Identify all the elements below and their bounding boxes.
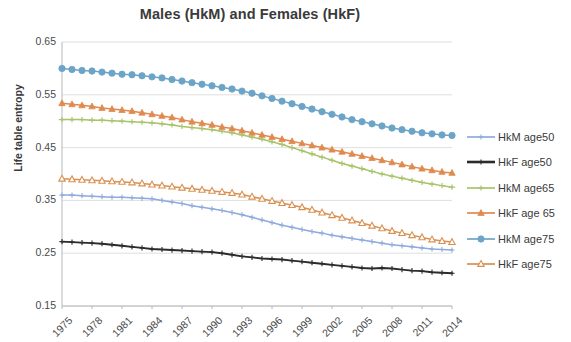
data-point-marker <box>299 227 304 232</box>
data-point-marker <box>309 260 314 265</box>
legend-swatch <box>466 232 496 246</box>
legend-label: HkF age 65 <box>498 207 555 219</box>
data-point-marker <box>369 121 375 127</box>
data-point-marker <box>79 240 84 245</box>
data-point-marker <box>79 193 84 198</box>
data-point-marker <box>119 243 124 248</box>
data-point-marker <box>139 120 145 125</box>
data-point-marker <box>409 244 414 249</box>
data-point-marker <box>189 125 195 130</box>
data-point-marker <box>259 256 264 261</box>
data-point-marker <box>339 161 345 166</box>
legend-swatch <box>466 130 496 144</box>
data-point-marker <box>119 195 124 200</box>
data-point-marker <box>449 185 455 190</box>
legend-item[interactable]: HkF age50 <box>466 150 571 176</box>
data-point-marker <box>249 255 254 260</box>
data-point-marker <box>439 247 444 252</box>
data-point-marker <box>429 181 435 186</box>
data-point-marker <box>399 243 404 248</box>
legend-label: HkM age75 <box>498 233 554 245</box>
data-point-marker <box>99 194 104 199</box>
data-point-marker <box>159 247 164 252</box>
data-point-marker <box>439 183 445 188</box>
legend-item[interactable]: HkM age50 <box>466 124 571 150</box>
data-point-marker <box>219 84 225 90</box>
data-point-marker <box>169 76 175 82</box>
data-point-marker <box>69 240 74 245</box>
data-point-marker <box>109 195 114 200</box>
data-point-marker <box>339 114 345 120</box>
data-point-marker <box>89 118 95 123</box>
data-point-marker <box>279 142 285 147</box>
data-point-marker <box>239 254 244 259</box>
data-point-marker <box>339 263 344 268</box>
data-point-marker <box>299 103 305 109</box>
data-point-marker <box>409 178 415 183</box>
data-point-marker <box>309 151 315 156</box>
data-point-marker <box>149 120 155 125</box>
data-point-marker <box>269 95 275 101</box>
data-point-marker <box>299 259 304 264</box>
data-point-marker <box>79 67 85 73</box>
data-point-marker <box>329 111 335 117</box>
data-point-marker <box>159 121 165 126</box>
legend-item[interactable]: HkF age 65 <box>466 201 571 227</box>
data-point-marker <box>159 198 164 203</box>
data-point-marker <box>89 241 94 246</box>
data-point-marker <box>419 245 424 250</box>
data-point-marker <box>439 132 445 138</box>
data-point-marker <box>289 225 294 230</box>
data-point-marker <box>209 127 215 132</box>
data-point-marker <box>249 215 254 220</box>
data-point-marker <box>319 108 325 114</box>
data-point-marker <box>419 269 424 274</box>
data-point-marker <box>429 270 434 275</box>
legend-item[interactable]: HkM age75 <box>466 226 571 252</box>
legend-item[interactable]: HkM age65 <box>466 175 571 201</box>
data-point-marker <box>359 166 365 171</box>
data-point-marker <box>299 148 305 153</box>
data-point-marker <box>159 75 165 81</box>
data-point-marker <box>109 70 115 76</box>
data-point-marker <box>79 117 85 122</box>
data-point-marker <box>279 98 285 104</box>
data-point-marker <box>179 201 184 206</box>
data-point-marker <box>478 236 484 242</box>
data-point-marker <box>389 174 395 179</box>
legend-label: HkF age75 <box>498 258 552 270</box>
legend-swatch <box>466 206 496 220</box>
data-point-marker <box>309 106 315 112</box>
data-point-marker <box>199 126 205 131</box>
data-point-marker <box>419 180 425 185</box>
data-point-marker <box>69 66 75 72</box>
data-point-marker <box>329 233 334 238</box>
series-0 <box>59 193 454 253</box>
data-point-marker <box>339 234 344 239</box>
data-point-marker <box>249 90 255 96</box>
data-point-marker <box>319 155 325 160</box>
data-point-marker <box>209 206 214 211</box>
chart-legend: HkM age50HkF age50HkM age65HkF age 65HkM… <box>466 124 571 277</box>
data-point-marker <box>269 256 274 261</box>
data-point-marker <box>329 158 335 163</box>
data-point-marker <box>129 244 134 249</box>
data-point-marker <box>139 245 144 250</box>
data-point-marker <box>429 131 435 137</box>
series-line <box>62 195 452 250</box>
data-point-marker <box>309 229 314 234</box>
legend-label: HkM age65 <box>498 182 554 194</box>
legend-item[interactable]: HkF age75 <box>466 252 571 278</box>
data-point-marker <box>209 83 215 89</box>
data-point-marker <box>219 251 224 256</box>
series-4 <box>59 65 455 138</box>
data-point-marker <box>289 101 295 107</box>
data-point-marker <box>389 125 395 131</box>
data-point-marker <box>109 118 115 123</box>
data-point-marker <box>399 126 405 132</box>
data-point-marker <box>99 69 105 75</box>
data-point-marker <box>478 185 484 190</box>
data-point-marker <box>419 130 425 136</box>
data-point-marker <box>259 217 264 222</box>
data-point-marker <box>359 265 364 270</box>
